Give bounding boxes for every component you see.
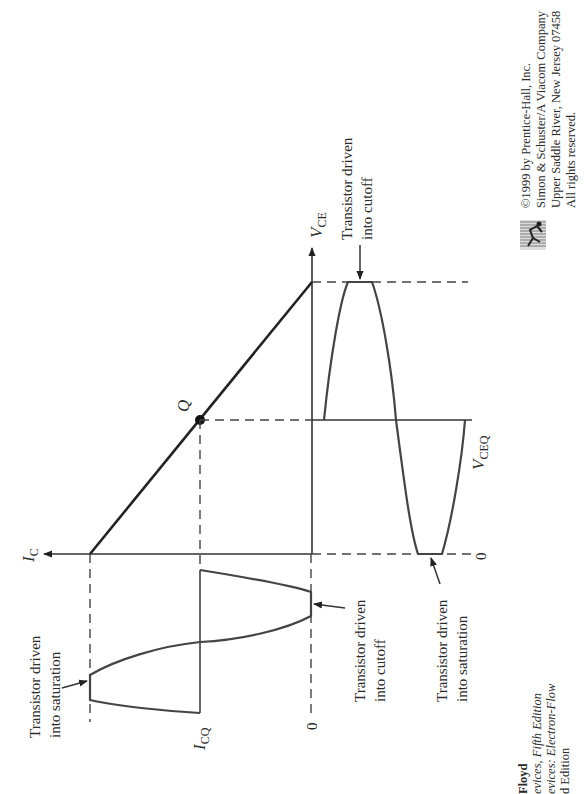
vce-saturation-annotation: Transistor driven into saturation <box>434 596 470 702</box>
ic-zero-label: 0 <box>304 723 320 731</box>
copyright-text: ©1999 by Prentice-Hall, Inc. Simon & Sch… <box>519 8 578 209</box>
vce-waveform <box>324 282 465 554</box>
vceq-label: VCEQ <box>469 435 491 470</box>
q-point-label: Q <box>174 400 193 412</box>
publisher-logo-icon <box>520 220 546 250</box>
ic-axis-label: IC <box>19 548 41 563</box>
load-line-diagram: IC VCE Q ICQ 0 Transistor driven into sa… <box>0 0 586 794</box>
vce-axis-label: VCE <box>307 212 329 238</box>
vce-zero-label: 0 <box>473 553 489 561</box>
ic-saturation-arrow <box>62 681 87 688</box>
vce-cutoff-annotation: Transistor driven into cutoff <box>339 134 375 240</box>
vce-saturation-arrow <box>431 558 440 584</box>
book-credit-text: Floyd evices, Fifth Edition evices: Elec… <box>516 681 572 794</box>
ic-cutoff-arrow <box>314 604 345 608</box>
ic-saturation-annotation: Transistor driven into saturation <box>27 632 63 738</box>
ic-cutoff-annotation: Transistor driven into cutoff <box>352 596 388 702</box>
icq-label: ICQ <box>190 727 212 751</box>
